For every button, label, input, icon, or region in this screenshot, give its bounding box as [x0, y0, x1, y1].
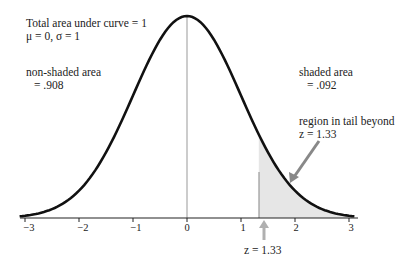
- tail-z-label: z = 1.33: [299, 128, 336, 141]
- tail-arrow: [289, 141, 319, 183]
- x-tick-label: 2: [293, 222, 298, 233]
- z-marker-label: z = 1.33: [244, 244, 281, 257]
- total-area-label: Total area under curve = 1: [26, 17, 147, 30]
- shaded-tail-region: [259, 135, 355, 218]
- shaded-area-value: = .092: [307, 79, 337, 92]
- nonshaded-area-value: = .908: [34, 79, 64, 92]
- nonshaded-area-label: non-shaded area: [26, 66, 101, 79]
- tail-region-label: region in tail beyond: [299, 115, 395, 128]
- parameters-label: μ = 0, σ = 1: [26, 30, 80, 43]
- x-tick-label: −3: [23, 222, 34, 233]
- x-tick-label: 1: [240, 222, 245, 233]
- shaded-area-label: shaded area: [299, 66, 353, 79]
- x-tick-label: −2: [77, 222, 88, 233]
- z-marker-arrow: [259, 220, 269, 240]
- x-tick-label: 3: [348, 222, 353, 233]
- x-tick-label: 0: [184, 222, 189, 233]
- x-tick-label: −1: [130, 222, 141, 233]
